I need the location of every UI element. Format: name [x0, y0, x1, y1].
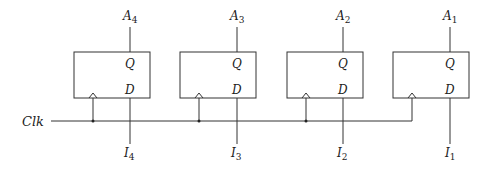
flip-flop-box	[393, 52, 469, 98]
q-pin-label: Q	[232, 57, 242, 71]
d-pin-label: D	[124, 83, 135, 97]
clock-label: Clk	[22, 114, 44, 129]
input-label: I1	[444, 146, 455, 162]
flip-flop-box	[74, 52, 150, 98]
d-pin-label: D	[231, 83, 242, 97]
input-label: I4	[123, 146, 135, 162]
flip-flop-a3: Q D A3 I3	[180, 9, 256, 162]
output-label: A3	[229, 9, 245, 25]
flip-flop-a2: Q D A2 I2	[287, 9, 363, 162]
junction-dot	[92, 120, 95, 123]
register-diagram: Clk Q D A4 I4 Q D A3 I3	[0, 0, 495, 170]
junction-dot	[198, 120, 201, 123]
q-pin-label: Q	[445, 57, 455, 71]
output-label: A4	[122, 9, 138, 25]
output-label: A2	[335, 9, 350, 25]
flip-flop-a4: Q D A4 I4	[74, 9, 150, 162]
q-pin-label: Q	[125, 57, 135, 71]
flip-flop-box	[180, 52, 256, 98]
input-label: I2	[336, 146, 347, 162]
diagram-svg: Clk Q D A4 I4 Q D A3 I3	[0, 0, 495, 170]
flip-flop-a1: Q D A1 I1	[393, 9, 469, 162]
input-label: I3	[230, 146, 242, 162]
d-pin-label: D	[337, 83, 348, 97]
junction-dot	[305, 120, 308, 123]
output-label: A1	[442, 9, 457, 25]
q-pin-label: Q	[338, 57, 348, 71]
d-pin-label: D	[444, 83, 455, 97]
flip-flop-box	[287, 52, 363, 98]
